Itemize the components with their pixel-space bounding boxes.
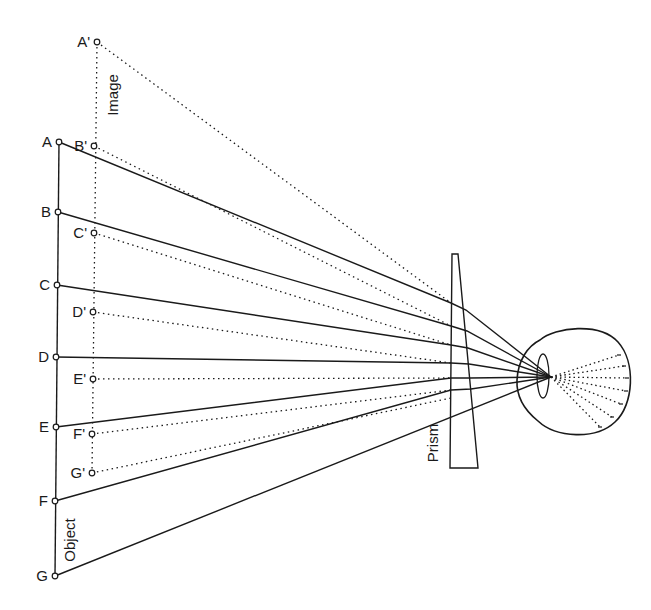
image-ray-g [92, 398, 451, 473]
image-point-dp [90, 309, 96, 315]
image-line [92, 42, 97, 473]
image-point-bp [91, 143, 97, 149]
image-point-label: G' [70, 464, 85, 481]
retina-ray [551, 377, 627, 378]
image-point-label: A' [77, 33, 90, 50]
object-point-label: E [39, 418, 49, 435]
image-label: Image [104, 74, 121, 116]
image-point-ep [90, 376, 96, 382]
image-ray-c [94, 233, 451, 345]
ray-group [55, 42, 551, 576]
object-point-f [52, 498, 58, 504]
object-point-label: F [39, 492, 48, 509]
image-ray-f [92, 390, 451, 434]
object-point-g [52, 573, 58, 579]
object-label: Object [61, 517, 78, 561]
image-point-label: D' [72, 303, 86, 320]
object-point-a [56, 139, 62, 145]
eye [517, 329, 630, 435]
image-point-label: C' [73, 224, 87, 241]
image-point-cp [91, 230, 97, 236]
point-group: ABCDEFGA'B'C'D'E'F'G' [36, 33, 99, 584]
image-ray-e [93, 378, 451, 379]
object-point-label: A [42, 133, 52, 150]
image-point-fp [89, 431, 95, 437]
object-ray-a [59, 142, 551, 377]
object-point-e [53, 424, 59, 430]
retina-ray [551, 366, 624, 377]
object-ray-g [55, 377, 551, 576]
object-ray-b [58, 212, 551, 377]
object-point-label: D [38, 348, 49, 365]
retina-ray [551, 377, 612, 417]
object-ray-d [56, 357, 551, 377]
object-point-label: G [36, 567, 48, 584]
object-ray-e [56, 377, 551, 427]
prism-shape [450, 254, 478, 468]
retina-ray [551, 377, 600, 427]
retina-ray [551, 355, 619, 377]
object-ray-f [55, 377, 551, 501]
image-point-ap [94, 39, 100, 45]
object-point-d [53, 354, 59, 360]
object-point-c [54, 282, 60, 288]
object-point-label: B [41, 203, 51, 220]
image-point-label: F' [73, 425, 85, 442]
image-point-label: B' [74, 137, 87, 154]
retina-ray [551, 377, 626, 391]
prism-label: Prism [424, 424, 441, 462]
object-point-b [55, 209, 61, 215]
image-ray-a [97, 42, 451, 303]
image-point-label: E' [73, 370, 86, 387]
object-point-label: C [39, 276, 50, 293]
retina-ray-group [551, 355, 629, 427]
image-point-gp [89, 470, 95, 476]
prism-ray-diagram: ABCDEFGA'B'C'D'E'F'G' Image Prism Object [0, 0, 651, 610]
